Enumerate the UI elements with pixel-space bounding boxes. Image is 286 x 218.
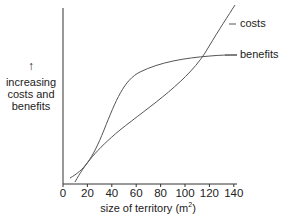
y-label-line-3: benefits	[0, 100, 62, 112]
y-label-line-2: costs and	[0, 88, 62, 100]
x-label-text: size of territory (m	[100, 202, 188, 214]
x-tick-80: 80	[154, 187, 167, 199]
costs-curve	[75, 5, 235, 182]
y-axis-label: ↑ increasing costs and benefits	[0, 60, 62, 112]
x-label-close: )	[192, 202, 196, 214]
x-tick-140: 140	[224, 187, 243, 199]
x-tick-60: 60	[130, 187, 143, 199]
y-label-line-1: increasing	[0, 76, 62, 88]
x-axis-label: size of territory (m2)	[100, 201, 196, 214]
x-tick-20: 20	[81, 187, 94, 199]
x-tick-100: 100	[175, 187, 194, 199]
benefits-label: benefits	[240, 48, 279, 60]
x-tick-40: 40	[105, 187, 118, 199]
up-arrow-icon: ↑	[0, 60, 62, 72]
benefits-curve	[70, 55, 237, 178]
x-tick-0: 0	[60, 187, 66, 199]
costs-label: costs	[240, 17, 266, 29]
x-tick-120: 120	[200, 187, 219, 199]
